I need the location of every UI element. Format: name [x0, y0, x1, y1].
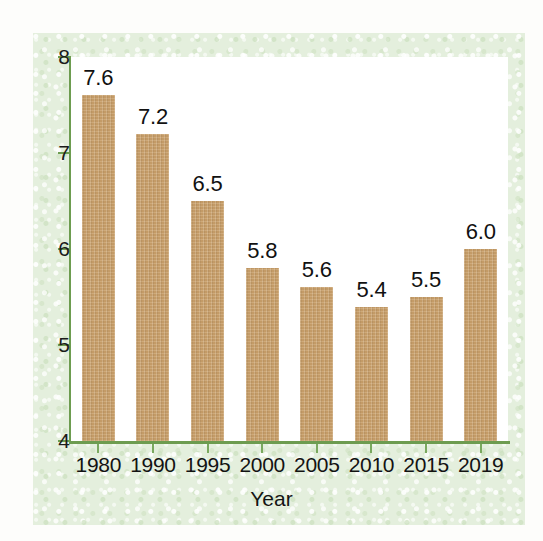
bar-chart-figure: 45678 19801990199520002005201020152019 7… [0, 0, 543, 541]
y-tick-label-wrap: 4 [20, 430, 70, 452]
y-tick-label-wrap: 7 [20, 142, 70, 164]
bar-value-label: 7.2 [118, 106, 188, 128]
bar [191, 201, 224, 441]
cropped-title-remnant [0, 0, 543, 6]
x-tick-mark [316, 444, 318, 453]
y-tick-label-wrap: 8 [20, 46, 70, 68]
bar [82, 95, 115, 441]
x-tick-mark [425, 444, 427, 453]
x-tick-mark [480, 444, 482, 453]
bar [136, 134, 169, 441]
x-axis-line [69, 441, 510, 444]
bar [355, 307, 388, 441]
bar-value-label: 6.5 [173, 173, 243, 195]
x-tick-mark [261, 444, 263, 453]
x-tick-mark [97, 444, 99, 453]
y-tick-label: 5 [40, 334, 70, 355]
y-tick-label: 8 [40, 46, 70, 67]
x-tick-mark [207, 444, 209, 453]
y-tick-label-wrap: 5 [20, 334, 70, 356]
bar [300, 287, 333, 441]
x-axis-title: Year [0, 487, 543, 511]
bar-value-label: 5.5 [391, 269, 461, 291]
bar-value-label: 7.6 [63, 67, 133, 89]
x-tick-mark [370, 444, 372, 453]
y-tick-label: 4 [40, 430, 70, 451]
x-tick-label: 2019 [446, 453, 516, 476]
x-tick-mark [152, 444, 154, 453]
bar [464, 249, 497, 441]
bar [410, 297, 443, 441]
y-tick-label: 6 [40, 238, 70, 259]
bar [246, 268, 279, 441]
y-tick-label: 7 [40, 142, 70, 163]
bar-value-label: 6.0 [446, 221, 516, 243]
y-tick-label-wrap: 6 [20, 238, 70, 260]
